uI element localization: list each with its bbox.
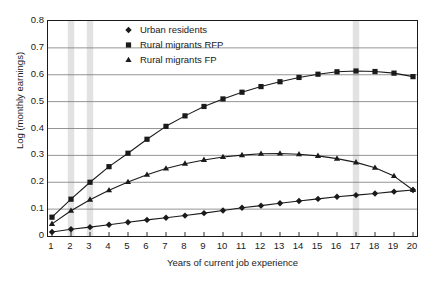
x-tick-label: 15 [312, 241, 323, 251]
legend-label: Rural migrants RFP [140, 39, 223, 50]
data-point [182, 113, 187, 118]
x-tick-label: 16 [331, 241, 342, 251]
x-tick-label: 3 [86, 241, 91, 251]
data-point [372, 69, 377, 74]
chart-figure: 00.10.20.30.40.50.60.70.8 Log (monthly e… [0, 0, 437, 283]
data-point [372, 190, 378, 196]
x-tick-label: 12 [255, 241, 266, 251]
data-point [125, 219, 131, 225]
square-marker-icon [122, 38, 135, 51]
x-tick-label: 11 [236, 241, 246, 251]
data-point [49, 221, 55, 226]
data-point [220, 96, 225, 101]
x-axis-tick-labels: 1234567891011121314151617181920 [47, 241, 418, 255]
data-point [239, 90, 244, 95]
x-tick-label: 19 [388, 241, 399, 251]
data-point [144, 217, 150, 223]
data-point [258, 84, 263, 89]
data-point [296, 151, 302, 156]
plot-svg [48, 21, 417, 236]
data-point [87, 180, 92, 185]
data-point [353, 68, 358, 73]
data-point [334, 69, 339, 74]
y-tick-label: 0 [2, 230, 44, 240]
data-point [49, 229, 55, 235]
legend-label: Urban residents [140, 24, 207, 35]
plot-area [47, 20, 418, 237]
x-tick-label: 4 [105, 241, 110, 251]
x-tick-label: 8 [181, 241, 186, 251]
data-point [277, 79, 282, 84]
data-point [258, 202, 264, 208]
data-point [220, 207, 226, 213]
y-axis-title: Log (monthly earnings) [14, 21, 25, 181]
y-tick-label: 0.1 [2, 203, 44, 213]
data-point [163, 215, 169, 221]
chart-legend: Urban residentsRural migrants RFPRural m… [122, 22, 223, 67]
data-point [315, 72, 320, 77]
x-tick-label: 14 [293, 241, 304, 251]
data-point [106, 222, 112, 228]
x-tick-label: 7 [162, 241, 167, 251]
legend-item: Urban residents [122, 22, 223, 36]
data-series-layer [49, 68, 416, 235]
x-tick-label: 10 [217, 241, 228, 251]
data-point [163, 124, 168, 129]
x-tick-label: 18 [369, 241, 380, 251]
data-point [391, 71, 396, 76]
data-point [125, 151, 130, 156]
data-point [144, 137, 149, 142]
data-point [334, 194, 340, 200]
series-diamond [49, 187, 416, 235]
data-point [391, 188, 397, 194]
data-point [239, 205, 245, 211]
legend-item: Rural migrants RFP [122, 37, 223, 51]
x-tick-label: 17 [350, 241, 361, 251]
data-point [201, 104, 206, 109]
data-point [277, 150, 283, 155]
x-tick-label: 13 [274, 241, 285, 251]
data-point [410, 74, 415, 79]
data-point [277, 200, 283, 206]
legend-item: Rural migrants FP [122, 52, 223, 66]
legend-label: Rural migrants FP [140, 54, 217, 65]
x-axis-title: Years of current job experience [47, 257, 418, 268]
data-point [296, 198, 302, 204]
x-tick-label: 2 [67, 241, 72, 251]
x-tick-label: 9 [200, 241, 205, 251]
data-point [106, 164, 111, 169]
data-point [201, 210, 207, 216]
diamond-marker-icon [122, 23, 135, 36]
x-tick-label: 20 [407, 241, 418, 251]
data-point [258, 150, 264, 155]
series-triangle [49, 150, 416, 226]
data-point [182, 212, 188, 218]
gridlines [48, 48, 417, 209]
data-point [315, 196, 321, 202]
data-point [68, 197, 73, 202]
data-point [296, 75, 301, 80]
triangle-marker-icon [122, 53, 135, 66]
x-tick-label: 1 [48, 241, 53, 251]
series-square [49, 68, 415, 219]
x-tick-label: 6 [143, 241, 148, 251]
data-point [49, 215, 54, 220]
x-tick-label: 5 [124, 241, 129, 251]
